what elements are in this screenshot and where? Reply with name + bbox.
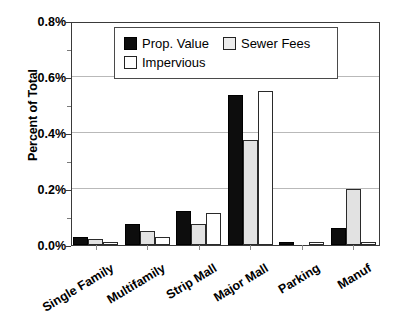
bar-2: [103, 242, 118, 245]
bar-0: [176, 211, 191, 245]
legend-entry-sewer-fees: Sewer Fees: [223, 36, 310, 51]
bar-2: [361, 242, 376, 245]
x-axis-tick-mark: [302, 245, 303, 250]
legend-swatch-prop-value-icon: [124, 37, 137, 50]
x-axis-tick-mark: [147, 245, 148, 250]
bar-2: [309, 242, 324, 245]
legend-entry-impervious: Impervious: [124, 55, 206, 70]
x-axis-tick-mark: [96, 245, 97, 250]
bar-2: [206, 213, 221, 245]
y-axis-tick-label: 0.6%: [4, 71, 66, 85]
legend-label-prop-value: Prop. Value: [142, 36, 209, 51]
bar-1: [243, 140, 258, 245]
y-axis-title: Percent of Total: [26, 35, 40, 195]
legend-row-1: Prop. Value Sewer Fees: [124, 34, 329, 53]
x-axis-tick-mark: [353, 245, 354, 250]
legend-entry-prop-value: Prop. Value: [124, 36, 209, 51]
legend-label-sewer-fees: Sewer Fees: [241, 36, 310, 51]
bar-0: [125, 224, 140, 245]
x-axis-tick-mark: [199, 245, 200, 250]
bar-chart-figure: Percent of Total 0.8%0.6%0.4%0.2%0.0% Si…: [0, 0, 400, 320]
y-axis-tick-mark: [65, 246, 71, 247]
bar-group: [73, 23, 118, 245]
bar-0: [279, 242, 294, 245]
bar-0: [228, 95, 243, 245]
bar-2: [258, 91, 273, 245]
bar-2: [155, 237, 170, 245]
y-axis-tick-label: 0.8%: [4, 15, 66, 29]
bar-0: [73, 237, 88, 245]
legend-swatch-impervious-icon: [124, 56, 137, 69]
legend-label-impervious: Impervious: [142, 55, 206, 70]
legend-row-2: Impervious: [124, 53, 329, 72]
y-axis-tick-label: 0.2%: [4, 183, 66, 197]
chart-legend: Prop. Value Sewer Fees Impervious: [114, 27, 338, 79]
x-axis-tick-mark: [250, 245, 251, 250]
legend-swatch-sewer-fees-icon: [223, 37, 236, 50]
bar-1: [346, 189, 361, 245]
bar-0: [331, 228, 346, 245]
y-axis-tick-label: 0.4%: [4, 127, 66, 141]
bar-1: [191, 224, 206, 245]
bar-1: [140, 231, 155, 245]
y-axis-tick-label: 0.0%: [4, 239, 66, 253]
